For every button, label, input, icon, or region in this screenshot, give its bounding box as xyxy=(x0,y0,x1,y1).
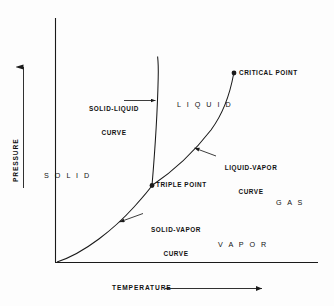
solid-liquid-curve xyxy=(152,57,158,186)
region-label-liquid: L I Q U I D xyxy=(177,100,233,109)
callout-solid-liquid-line1: SOLID-LIQUID xyxy=(83,105,145,113)
callout-liquid-vapor-line2: CURVE xyxy=(218,188,284,196)
callout-liquid-vapor-line1: LIQUID-VAPOR xyxy=(218,164,284,172)
y-axis-title: PRESSURE xyxy=(12,139,20,182)
region-label-vapor: V A P O R xyxy=(218,240,268,249)
callout-liquid-vapor-curve: LIQUID-VAPOR CURVE xyxy=(218,148,284,212)
callout-solid-vapor-line2: CURVE xyxy=(145,250,207,258)
x-axis-title: TEMPERATURE xyxy=(112,284,172,292)
point-label-triple-point: TRIPLE POINT xyxy=(156,181,207,189)
callout-solid-liquid-line2: CURVE xyxy=(83,129,145,137)
region-label-solid: S O L I D xyxy=(44,171,91,180)
liquid-vapor-leader xyxy=(195,148,217,156)
phase-diagram-figure: S O L I D L I Q U I D G A S V A P O R SO… xyxy=(0,0,334,306)
solid-vapor-curve xyxy=(57,186,152,263)
point-label-critical-point: CRITICAL POINT xyxy=(239,69,298,77)
critical-point-marker xyxy=(232,71,237,76)
triple-point-marker xyxy=(150,183,155,188)
callout-solid-vapor-line1: SOLID-VAPOR xyxy=(145,226,207,234)
callout-solid-liquid-curve: SOLID-LIQUID CURVE xyxy=(83,89,145,153)
callout-solid-vapor-curve: SOLID-VAPOR CURVE xyxy=(145,210,207,274)
